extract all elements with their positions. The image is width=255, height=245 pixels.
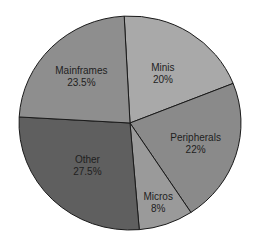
pie-chart: Minis20%Peripherals22%Micros8%Other27.5%… (0, 0, 255, 245)
slice-value-other: 27.5% (73, 166, 101, 177)
slice-value-micros: 8% (151, 203, 166, 214)
slice-label-other: Other (75, 154, 101, 165)
pie-slices (19, 16, 241, 230)
slice-label-peripherals: Peripherals (170, 132, 221, 143)
slice-label-micros: Micros (143, 191, 172, 202)
slice-label-minis: Minis (151, 62, 174, 73)
slice-value-peripherals: 22% (186, 144, 206, 155)
slice-label-mainframes: Mainframes (55, 65, 107, 76)
slice-value-mainframes: 23.5% (67, 77, 95, 88)
slice-value-minis: 20% (153, 74, 173, 85)
